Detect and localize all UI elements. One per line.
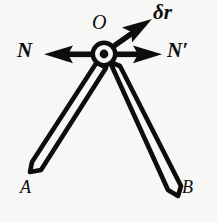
pivot-label: O: [92, 12, 106, 32]
rod-OA: [30, 62, 106, 172]
left-rod-end-label: A: [20, 178, 31, 196]
diagram-canvas: O δr N N′ A B: [0, 0, 217, 222]
rod-OB-body: [110, 62, 181, 196]
left-force-label: N: [17, 40, 32, 61]
displacement-label: δr: [153, 2, 172, 23]
pivot-hinge: [93, 43, 115, 65]
pivot-center-dot: [100, 50, 109, 59]
rod-OA-body: [30, 62, 106, 172]
right-force-label: N′: [167, 40, 188, 61]
rod-OB: [110, 62, 181, 196]
right-rod-end-label: B: [182, 178, 193, 196]
